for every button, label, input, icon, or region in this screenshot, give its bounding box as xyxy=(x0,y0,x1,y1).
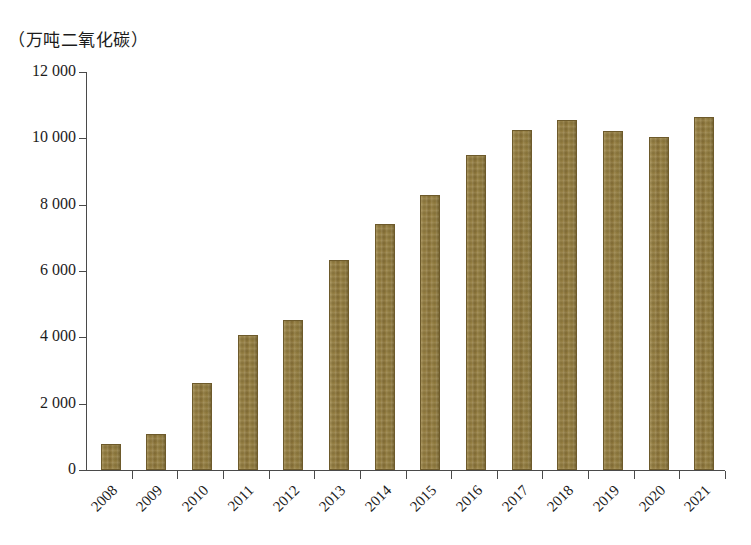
y-axis-tick xyxy=(79,271,87,272)
x-axis-label: 2014 xyxy=(361,482,394,515)
bar xyxy=(603,131,623,470)
bar xyxy=(329,260,349,470)
x-axis-tick xyxy=(360,471,361,479)
bar xyxy=(192,383,212,470)
x-axis-label: 2016 xyxy=(453,482,486,515)
x-axis-tick xyxy=(314,471,315,479)
y-axis-tick-label: 6 000 xyxy=(8,261,76,279)
y-axis-tick-label: 0 xyxy=(8,460,76,478)
x-axis-tick xyxy=(177,471,178,479)
x-axis-tick xyxy=(132,471,133,479)
x-axis-tick xyxy=(679,471,680,479)
y-axis-tick-label: 2 000 xyxy=(8,394,76,412)
y-axis-tick-label: 4 000 xyxy=(8,327,76,345)
x-axis-label: 2017 xyxy=(498,482,531,515)
bar xyxy=(238,335,258,470)
y-axis-tick xyxy=(79,138,87,139)
y-axis-unit-label: （万吨二氧化碳） xyxy=(8,26,148,51)
x-axis-tick xyxy=(223,471,224,479)
bar xyxy=(283,320,303,470)
x-axis-label: 2021 xyxy=(681,482,714,515)
x-axis-tick xyxy=(588,471,589,479)
x-axis-tick xyxy=(406,471,407,479)
bar xyxy=(557,120,577,470)
x-axis-label: 2013 xyxy=(316,482,349,515)
y-axis-tick xyxy=(79,404,87,405)
bar xyxy=(420,195,440,470)
y-axis-tick-label: 8 000 xyxy=(8,195,76,213)
y-axis-tick xyxy=(79,72,87,73)
x-axis-tick xyxy=(269,471,270,479)
x-axis-tick xyxy=(451,471,452,479)
x-axis-tick xyxy=(542,471,543,479)
bar xyxy=(375,224,395,470)
bar xyxy=(146,434,166,470)
x-axis-label: 2018 xyxy=(544,482,577,515)
bar xyxy=(466,155,486,470)
x-axis-tick xyxy=(497,471,498,479)
bar xyxy=(101,444,121,470)
plot-area: 02 0004 0006 0008 00010 00012 000 xyxy=(86,72,725,470)
x-axis-label: 2015 xyxy=(407,482,440,515)
bar-chart: （万吨二氧化碳） 02 0004 0006 0008 00010 00012 0… xyxy=(0,0,751,545)
x-axis-label: 2020 xyxy=(635,482,668,515)
x-axis-label: 2019 xyxy=(590,482,623,515)
y-axis-tick-label: 12 000 xyxy=(8,62,76,80)
x-axis-label: 2008 xyxy=(88,482,121,515)
y-axis-tick xyxy=(79,470,87,471)
bar xyxy=(649,137,669,470)
x-axis-label: 2009 xyxy=(133,482,166,515)
x-axis-tick xyxy=(634,471,635,479)
y-axis-tick xyxy=(79,337,87,338)
x-axis-tick xyxy=(725,471,726,479)
y-axis-tick xyxy=(79,205,87,206)
y-axis-tick-label: 10 000 xyxy=(8,128,76,146)
bar xyxy=(694,117,714,470)
x-axis-label: 2010 xyxy=(179,482,212,515)
x-axis-label: 2012 xyxy=(270,482,303,515)
bar xyxy=(512,130,532,470)
x-axis-label: 2011 xyxy=(224,482,257,515)
